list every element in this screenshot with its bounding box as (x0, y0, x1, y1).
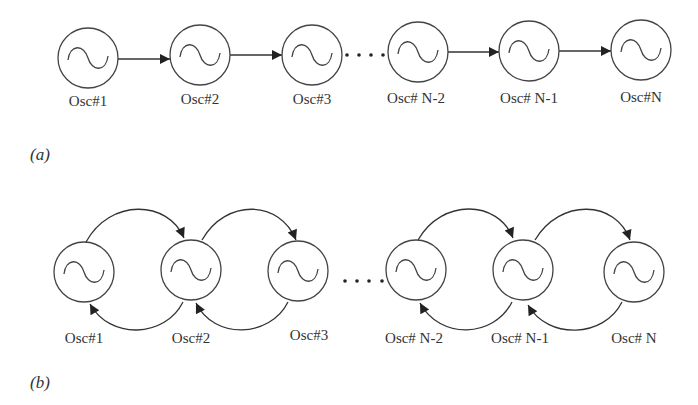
oscillator-node (611, 20, 671, 80)
panel-a-label: (a) (30, 145, 50, 164)
node-label: Osc#3 (293, 91, 331, 107)
panel-b-label: (b) (30, 373, 50, 392)
link-b-n2-n1-forward (418, 209, 513, 240)
node-label: Osc#2 (172, 330, 210, 346)
oscillator-node (493, 240, 553, 300)
panel-b: Osc#1 Osc#2 Osc#3 Osc# N-2 Osc# N-1 Osc#… (30, 209, 664, 392)
node-label: Osc#1 (69, 93, 107, 109)
oscillator-node (54, 242, 114, 302)
link-b-2-3-forward (202, 209, 296, 240)
link-b-3-2-backward (196, 302, 288, 330)
node-label: Osc# N-1 (500, 90, 558, 106)
node-label: Osc#N (620, 89, 662, 105)
node-label: Osc#2 (181, 91, 219, 107)
node-label: Osc#1 (65, 330, 103, 346)
node-label: Osc# N-2 (385, 330, 443, 346)
oscillator-coupling-diagram: Osc#1 Osc#2 Osc#3 Osc# N-2 Osc# N-1 Osc#… (0, 0, 698, 405)
oscillator-node (388, 22, 448, 82)
oscillator-node (268, 241, 328, 301)
node-label: Osc# N-1 (491, 330, 549, 346)
link-b-1-2-forward (86, 209, 184, 242)
link-b-2-1-backward (90, 302, 183, 330)
oscillator-node (282, 25, 342, 85)
panel-a: Osc#1 Osc#2 Osc#3 Osc# N-2 Osc# N-1 Osc#… (30, 20, 671, 164)
oscillator-node (161, 240, 221, 300)
ellipsis-dots (343, 279, 384, 283)
link-b-n1-n-forward (535, 209, 630, 240)
node-label: Osc# N (611, 330, 657, 346)
link-b-n-n1-backward (528, 302, 622, 330)
oscillator-node (386, 240, 446, 300)
oscillator-node (499, 21, 559, 81)
oscillator-node (604, 242, 664, 302)
node-label: Osc# N-2 (387, 90, 445, 106)
oscillator-node (170, 25, 230, 85)
node-label: Osc#3 (290, 327, 328, 343)
oscillator-node (58, 28, 118, 88)
link-b-n1-n2-backward (420, 302, 512, 330)
ellipsis-dots (345, 53, 385, 57)
